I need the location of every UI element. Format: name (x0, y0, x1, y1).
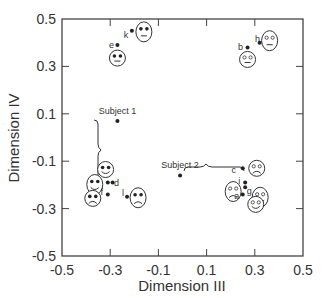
point-dot (178, 173, 182, 177)
face-icon (136, 22, 152, 42)
point-dot (241, 192, 245, 196)
point-dot (125, 195, 129, 199)
point-dot (243, 181, 247, 185)
scatter-chart: -0.5-0.3-0.10.10.30.50.50.30.1-0.1-0.3-0… (0, 0, 328, 298)
point-label: l (122, 188, 124, 198)
subject-label: Subject 1 (99, 106, 137, 116)
data-point: l (122, 188, 146, 208)
point-dot (241, 166, 245, 170)
point-dot (130, 29, 134, 33)
face-icon (98, 162, 114, 178)
point-label: g (247, 186, 252, 196)
x-tick-label: 0.5 (293, 262, 313, 278)
face-icon (240, 51, 256, 67)
y-tick-label: 0.1 (37, 106, 57, 122)
face-icon (109, 50, 125, 66)
point-label: f (101, 187, 104, 197)
x-tick-label: -0.3 (98, 262, 122, 278)
x-axis-label: Dimension III (138, 277, 226, 294)
face-icon (249, 160, 265, 176)
point-dot (106, 192, 110, 196)
data-point: h (255, 31, 278, 51)
data-points: kebhSubject 1djflSubject 2ciga (85, 22, 278, 213)
point-label: b (238, 42, 243, 52)
y-tick-label: -0.1 (32, 153, 56, 169)
point-dot (115, 43, 119, 47)
point-label: h (255, 34, 260, 44)
point-dot (246, 45, 250, 49)
face-icon (130, 188, 146, 208)
point-dot (106, 181, 110, 185)
x-tick-label: 0.3 (245, 262, 265, 278)
y-tick-label: 0.3 (37, 58, 57, 74)
y-tick-label: 0.5 (37, 11, 57, 27)
data-point: c (232, 160, 265, 176)
data-point: Subject 1 (99, 106, 137, 123)
x-tick-label: -0.5 (50, 262, 74, 278)
subject-label: Subject 2 (161, 160, 199, 170)
point-label: k (124, 30, 129, 40)
face-icon (262, 31, 278, 51)
point-dot (115, 119, 119, 123)
y-tick-label: -0.5 (32, 248, 56, 264)
data-point: k (124, 22, 152, 42)
face-icon (85, 190, 101, 206)
data-point: Subject 2 (161, 160, 199, 177)
point-label: d (114, 178, 119, 188)
x-tick-label: -0.1 (146, 262, 170, 278)
point-label: a (234, 191, 239, 201)
y-tick-label: -0.3 (32, 201, 56, 217)
data-point: e (109, 40, 126, 66)
x-tick-label: 0.1 (197, 262, 217, 278)
point-label: e (109, 40, 114, 50)
point-label: c (232, 165, 237, 175)
y-axis-label: Dimension IV (5, 93, 22, 182)
data-point: b (238, 42, 256, 67)
face-icon (248, 196, 264, 212)
